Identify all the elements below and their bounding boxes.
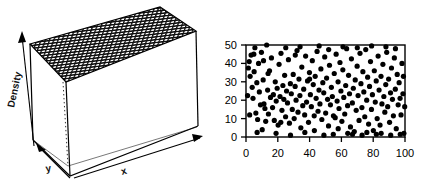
scatter-point [331, 113, 336, 118]
scatter-point [345, 103, 350, 108]
scatter-point [343, 83, 348, 88]
scatter-point [329, 85, 334, 90]
floor-hidden-edge-right [68, 127, 197, 166]
scatter-point [304, 99, 309, 104]
scatter-point [317, 101, 322, 106]
scatter-point [307, 76, 312, 81]
y-tick-label: 40 [225, 57, 237, 69]
scatter-point [398, 132, 403, 137]
scatter-point [255, 130, 260, 135]
scatter-point [246, 65, 251, 70]
scatter-point [375, 116, 380, 121]
scatter-point [266, 111, 271, 116]
scatter-point [339, 119, 344, 124]
scatter-point [354, 108, 359, 113]
scatter-point [245, 93, 250, 98]
scatter-point [385, 104, 390, 109]
scatter-point [365, 75, 370, 80]
y-tick-label: 0 [231, 131, 237, 143]
scatter-point [361, 89, 366, 94]
scatter-point [251, 52, 256, 57]
scatter-point [350, 132, 355, 137]
density-axis-arrowhead-icon [18, 31, 26, 43]
scatter-point [337, 60, 342, 65]
x-tick-label: 80 [367, 147, 379, 159]
scatter-point [372, 68, 377, 73]
scatter-point [392, 55, 397, 60]
scatter-point [271, 92, 276, 97]
scatter-point [383, 44, 388, 49]
scatter-point [274, 99, 279, 104]
scatter-point [293, 98, 298, 103]
scatter-point [364, 98, 369, 103]
y-tick-label: 50 [225, 39, 237, 51]
scatter-point [332, 71, 337, 76]
y-tick-label: 10 [225, 113, 237, 125]
scatter-point [312, 113, 317, 118]
axis-label-density: Density [5, 70, 23, 108]
scatter-points [245, 42, 407, 137]
scatter-point [257, 89, 262, 94]
scatter-point [335, 99, 340, 104]
scatter-point [370, 92, 375, 97]
scatter-point [327, 63, 332, 68]
scatter-point [378, 74, 383, 79]
scatter-point [318, 66, 323, 71]
scatter-point [292, 116, 297, 121]
scatter-point [273, 131, 278, 136]
scatter-point [265, 87, 270, 92]
density-surface-3d-svg: Density y x [0, 0, 212, 186]
scatter-point [376, 53, 381, 58]
scatter-point [303, 53, 308, 58]
scatter-point [336, 106, 341, 111]
scatter-point [289, 91, 294, 96]
scatter-point [364, 130, 369, 135]
scatter-point [308, 92, 313, 97]
scatter-point [359, 105, 364, 110]
scatter-point [293, 84, 298, 89]
x-axis-line [74, 138, 200, 178]
y-axis-3d [36, 143, 70, 178]
scatter-point [290, 107, 295, 112]
scatter-point [357, 51, 362, 56]
scatter-point [362, 114, 367, 119]
scatter-point [369, 107, 374, 112]
scatter-point [291, 72, 296, 77]
scatter-point [328, 102, 333, 107]
scatter-point [283, 114, 288, 119]
scatter-point [255, 117, 260, 122]
scatter-point [379, 131, 384, 136]
scatter-point [331, 132, 336, 137]
scatter-point [393, 46, 398, 51]
scatter-point [377, 122, 382, 127]
scatter-point [374, 78, 379, 83]
scatter-point [358, 81, 363, 86]
scatter-point [325, 97, 330, 102]
scatter-point [288, 81, 293, 86]
scatter-point [387, 120, 392, 125]
scatter-point [283, 45, 288, 50]
scatter-point [351, 86, 356, 91]
scatter-point [394, 126, 399, 131]
x-tick-label: 40 [303, 147, 315, 159]
scatter-point [307, 70, 312, 75]
scatter-point [390, 97, 395, 102]
scatter-point [381, 94, 386, 99]
scatter-point [311, 82, 316, 87]
scatter-point [398, 112, 403, 117]
axis-label-x: x [120, 165, 129, 177]
scatter-point [368, 59, 373, 64]
scatter-point [322, 54, 327, 59]
y-tick-label: 30 [225, 76, 237, 88]
scatter-point [383, 82, 388, 87]
floor-hidden-edge-left [33, 140, 68, 166]
scatter-point [256, 61, 261, 66]
scatter-point [278, 51, 283, 56]
scatter-point [355, 93, 360, 98]
scatter-point [297, 93, 302, 98]
scatter-point [388, 90, 393, 95]
box-bottom-outline [33, 126, 198, 176]
scatter-point [355, 45, 360, 50]
scatter-point [330, 94, 335, 99]
scatter-point [247, 112, 252, 117]
